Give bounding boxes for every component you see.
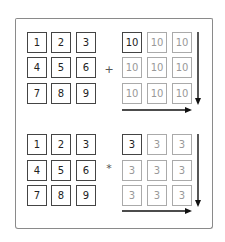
bottom-broadcast-cell: 3 [172, 160, 192, 181]
arrow-right-icon [122, 207, 194, 215]
top-broadcast-cell: 10 [147, 83, 167, 104]
bottom-left-matrix-cell: 6 [76, 160, 96, 181]
top-broadcast-cell: 10 [122, 57, 142, 78]
top-operator: + [104, 63, 114, 76]
bottom-broadcast-cell: 3 [147, 160, 167, 181]
bottom-left-matrix-cell: 9 [76, 185, 96, 206]
top-broadcast-cell: 10 [172, 57, 192, 78]
top-left-matrix-cell: 7 [27, 83, 47, 104]
top-left-matrix-cell: 5 [51, 57, 71, 78]
bottom-broadcast-cell: 3 [122, 160, 142, 181]
bottom-broadcast-cell: 3 [147, 185, 167, 206]
bottom-broadcast-cell: 3 [172, 134, 192, 155]
top-left-matrix-cell: 8 [51, 83, 71, 104]
top-broadcast-cell: 10 [172, 32, 192, 53]
top-left-matrix-cell: 4 [27, 57, 47, 78]
arrow-down-icon [194, 32, 202, 107]
bottom-broadcast-cell: 3 [172, 185, 192, 206]
top-broadcast-cell: 10 [147, 57, 167, 78]
bottom-left-matrix-cell: 7 [27, 185, 47, 206]
arrow-right-icon [122, 106, 194, 114]
top-left-matrix-cell: 6 [76, 57, 96, 78]
top-broadcast-cell: 10 [172, 83, 192, 104]
top-scalar-cell: 10 [122, 32, 142, 53]
top-broadcast-cell: 10 [122, 83, 142, 104]
bottom-left-matrix-cell: 4 [27, 160, 47, 181]
bottom-scalar-cell: 3 [122, 134, 142, 155]
top-broadcast-cell: 10 [147, 32, 167, 53]
bottom-left-matrix-cell: 3 [76, 134, 96, 155]
bottom-left-matrix-cell: 5 [51, 160, 71, 181]
top-left-matrix-cell: 1 [27, 32, 47, 53]
top-left-matrix-cell: 2 [51, 32, 71, 53]
bottom-operator: * [104, 162, 114, 175]
bottom-left-matrix-cell: 1 [27, 134, 47, 155]
arrow-down-icon [194, 134, 202, 209]
top-left-matrix-cell: 3 [76, 32, 96, 53]
bottom-broadcast-cell: 3 [147, 134, 167, 155]
bottom-left-matrix-cell: 8 [51, 185, 71, 206]
bottom-left-matrix-cell: 2 [51, 134, 71, 155]
top-left-matrix-cell: 9 [76, 83, 96, 104]
bottom-broadcast-cell: 3 [122, 185, 142, 206]
